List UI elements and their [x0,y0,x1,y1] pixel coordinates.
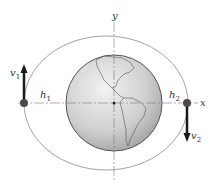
v2-arrowhead-icon [184,133,191,142]
h1-subscript: 1 [46,95,50,103]
v2-subscript: 2 [197,136,201,144]
v1-arrowhead-icon [21,64,28,73]
v1-label: v1 [10,68,20,81]
v2-label: v2 [191,131,201,144]
x-axis-label: x [200,98,206,108]
h1-label: h1 [40,90,51,103]
orbit-diagram: y x v1 h1 h2 v2 [0,0,214,187]
y-axis-label: y [112,11,118,21]
h2-subscript: 2 [175,95,179,103]
v1-subscript: 1 [16,73,20,81]
satellite-dot-left [20,99,28,107]
diagram-canvas [0,0,214,187]
satellite-dot-right [183,99,191,107]
h2-label: h2 [169,90,180,103]
